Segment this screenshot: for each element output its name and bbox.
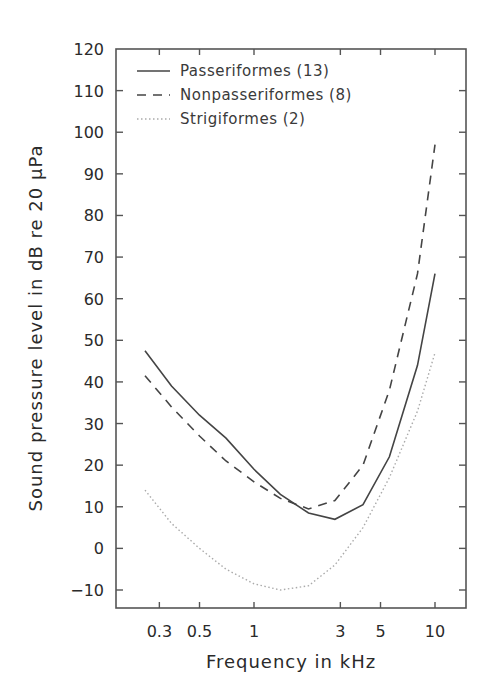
- y-tick-label: 30: [84, 415, 104, 434]
- legend-label: Strigiformes (2): [180, 110, 305, 128]
- y-tick-label: 50: [84, 331, 104, 350]
- x-tick-label: 10: [425, 622, 445, 641]
- legend: Passeriformes (13)Nonpasseriformes (8)St…: [137, 62, 352, 128]
- chart: −100102030405060708090100110120 0.30.513…: [0, 0, 498, 696]
- x-tick-label: 0.5: [187, 622, 212, 641]
- y-tick-label: 90: [84, 165, 104, 184]
- y-tick-label: 60: [84, 290, 104, 309]
- x-tick-label: 0.3: [147, 622, 172, 641]
- legend-label: Nonpasseriformes (8): [180, 86, 352, 104]
- series-line-nonpasseriformes: [145, 145, 435, 509]
- y-tick-label: 120: [73, 40, 104, 59]
- x-axis-ticks: 0.30.513510: [147, 49, 446, 641]
- x-tick-label: 1: [249, 622, 259, 641]
- y-tick-label: 20: [84, 456, 104, 475]
- y-tick-label: 80: [84, 206, 104, 225]
- series-line-strigiformes: [145, 353, 435, 590]
- y-tick-label: 100: [73, 123, 104, 142]
- x-axis-title: Frequency in kHz: [206, 651, 376, 672]
- y-tick-label: 70: [84, 248, 104, 267]
- data-series: [145, 145, 435, 590]
- x-tick-label: 3: [335, 622, 345, 641]
- y-tick-label: 40: [84, 373, 104, 392]
- y-tick-label: −10: [70, 581, 104, 600]
- y-tick-label: 10: [84, 498, 104, 517]
- legend-label: Passeriformes (13): [180, 62, 329, 80]
- x-tick-label: 5: [375, 622, 385, 641]
- series-line-passeriformes: [145, 274, 435, 520]
- y-tick-label: 110: [73, 82, 104, 101]
- y-tick-label: 0: [94, 539, 104, 558]
- y-axis-title: Sound pressure level in dB re 20 μPa: [25, 145, 46, 512]
- plot-frame: [116, 49, 466, 608]
